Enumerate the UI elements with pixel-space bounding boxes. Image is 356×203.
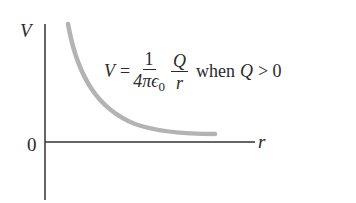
- coulomb-constant-fraction: 1 4πϵ0: [133, 50, 165, 93]
- plot-area: [0, 0, 356, 203]
- y-axis-label: V: [20, 21, 32, 40]
- origin-tick-label: 0: [27, 135, 37, 154]
- charge-over-distance-fraction: Q r: [171, 52, 188, 92]
- distance-denominator: r: [176, 72, 183, 92]
- epsilon-subscript: 0: [158, 79, 165, 94]
- equation-lhs: V: [104, 61, 115, 82]
- charge-numerator: Q: [171, 52, 188, 72]
- condition-word: when: [196, 61, 235, 82]
- condition-inequality: > 0: [258, 61, 282, 82]
- condition-variable: Q: [240, 61, 253, 82]
- fraction-numerator: 1: [143, 50, 156, 70]
- equation-annotation: V = 1 4πϵ0 Q r when Q > 0: [104, 50, 282, 93]
- x-axis-label: r: [258, 132, 265, 151]
- equation-equals: =: [120, 61, 130, 82]
- fraction-denominator: 4πϵ0: [133, 70, 165, 93]
